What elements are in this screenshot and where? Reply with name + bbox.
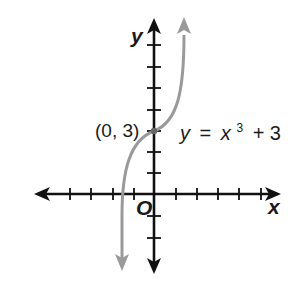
function-graph: y x O (0, 3) y = x 3 + 3 [0, 0, 301, 304]
svg-text:y = x 3: y = x 3 + 3 [178, 114, 281, 144]
point-label: (0, 3) [95, 120, 139, 141]
x-axis [34, 187, 281, 201]
x-axis-label: x [267, 195, 281, 218]
eq-plus-three: + 3 [253, 122, 281, 144]
equation-label: y = x 3 + 3 [178, 114, 281, 144]
eq-y: y [178, 122, 191, 144]
eq-equals: = [200, 122, 212, 144]
point-0-3 [151, 128, 157, 134]
y-axis [147, 18, 161, 274]
y-axis-label: y [130, 24, 144, 47]
curve-top-arrow-icon [177, 17, 191, 34]
eq-x: x [220, 122, 232, 144]
origin-label: O [136, 196, 152, 219]
eq-exponent: 3 [236, 121, 243, 135]
